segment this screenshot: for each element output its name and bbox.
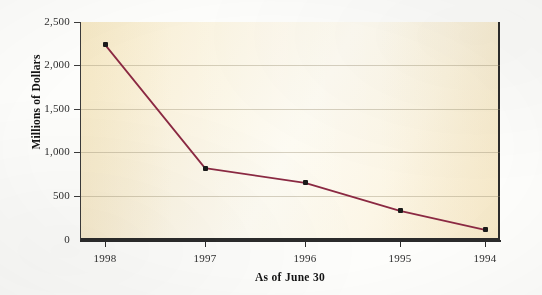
data-point-1995 [398, 208, 403, 213]
line-chart-figure: 2,500 2,000 1,500 1,000 500 0 1998 1997 … [0, 0, 542, 295]
data-series-layer [0, 0, 542, 295]
data-point-1998 [103, 42, 108, 47]
scanned-page-canvas: 2,500 2,000 1,500 1,000 500 0 1998 1997 … [0, 0, 542, 295]
data-point-1997 [203, 166, 208, 171]
series-line-millions-of-dollars [105, 45, 485, 230]
data-point-1994 [483, 227, 488, 232]
data-point-1996 [303, 180, 308, 185]
